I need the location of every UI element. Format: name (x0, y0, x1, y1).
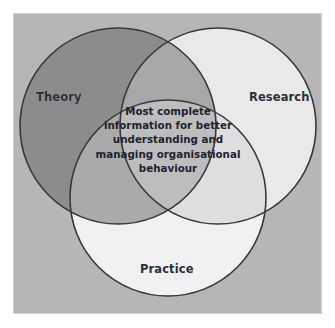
center-text-line: information for better (104, 119, 232, 131)
venn-label-theory: Theory (36, 90, 82, 104)
venn-label-research: Research (249, 90, 310, 104)
center-text-line: managing organisational (96, 148, 241, 160)
venn-diagram-figure: Theory Research Practice Most completein… (0, 0, 335, 328)
venn-center-text: Most completeinformation for betterunder… (88, 104, 248, 175)
center-text-line: understanding and (113, 133, 223, 145)
center-text-line: behaviour (139, 162, 197, 174)
venn-label-practice: Practice (140, 262, 194, 276)
center-text-line: Most complete (125, 105, 211, 117)
